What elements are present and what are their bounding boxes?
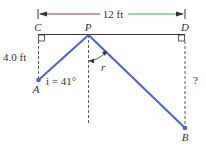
refraction-diagram: 12 ft C P D r 4.0 ft i = 41° A ? B <box>0 0 206 146</box>
point-c-label: C <box>34 21 42 33</box>
angle-r-label: r <box>101 61 106 73</box>
right-angle-d-icon <box>179 35 185 41</box>
height-label: 4.0 ft <box>3 51 26 63</box>
point-a-label: A <box>32 83 40 95</box>
dimension-arrow: 12 ft <box>38 8 185 20</box>
unknown-depth-label: ? <box>193 74 198 86</box>
right-angle-c-icon <box>39 35 45 41</box>
point-b-label: B <box>182 131 189 143</box>
incidence-angle-label: i = 41° <box>46 75 76 87</box>
point-d-label: D <box>180 21 189 33</box>
point-p-label: P <box>84 21 92 33</box>
refracted-ray <box>89 35 186 128</box>
width-label: 12 ft <box>103 8 123 20</box>
point-a-dot <box>36 78 41 83</box>
point-b-dot <box>183 126 188 131</box>
incident-ray <box>39 35 89 80</box>
